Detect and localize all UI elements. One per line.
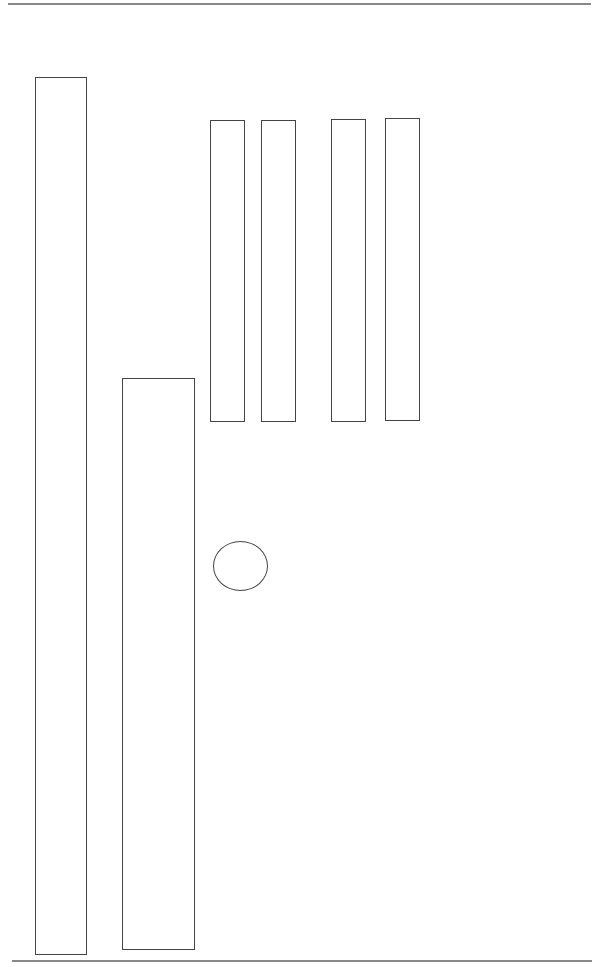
diagram-canvas — [0, 0, 606, 967]
page-rule-bottom — [12, 961, 592, 963]
title-box — [35, 77, 87, 955]
step-box-historical-cost — [385, 118, 420, 421]
step-box-depreciation — [261, 120, 296, 422]
step-box-cost-of-asset — [210, 120, 245, 422]
ellipse-cost — [213, 541, 268, 591]
step-box-carrying-amount — [331, 119, 366, 422]
page-rule-top — [8, 4, 591, 6]
description-box — [122, 378, 195, 950]
